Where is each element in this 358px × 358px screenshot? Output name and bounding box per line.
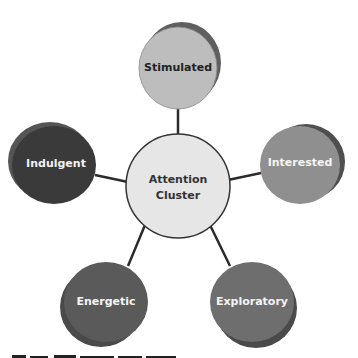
node-center: Attention Cluster	[126, 134, 230, 238]
center-circle	[126, 134, 230, 238]
connector-interested	[228, 173, 261, 180]
node-label: Exploratory	[216, 295, 288, 308]
attention-cluster-diagram: Stimulated Indulgent Interested Attentio…	[0, 0, 358, 358]
connector-energetic	[128, 225, 145, 266]
node-label: Stimulated	[144, 61, 212, 74]
node-exploratory: Exploratory	[210, 262, 297, 348]
node-stimulated: Stimulated	[139, 22, 221, 109]
node-label: Indulgent	[26, 157, 86, 170]
connector-exploratory	[210, 225, 230, 266]
center-label-line2: Cluster	[156, 189, 201, 202]
node-energetic: Energetic	[60, 262, 148, 347]
connector-indulgent	[95, 175, 128, 182]
node-label: Energetic	[76, 295, 135, 308]
node-label: Interested	[268, 156, 333, 169]
node-indulgent: Indulgent	[8, 122, 96, 204]
center-label-line1: Attention	[149, 173, 208, 186]
node-interested: Interested	[260, 124, 345, 204]
